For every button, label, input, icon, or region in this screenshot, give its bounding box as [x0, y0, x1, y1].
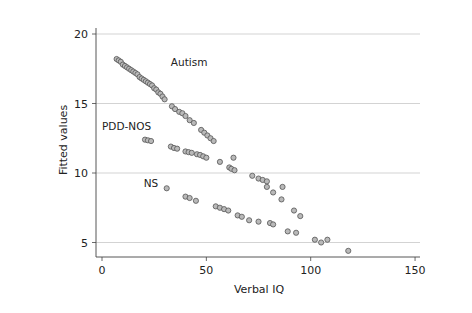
data-point	[271, 222, 276, 227]
data-point	[312, 237, 317, 242]
data-point	[346, 248, 351, 253]
data-point	[291, 208, 296, 213]
scatter-chart: 5101520050100150 AutismPDD-NOSNS Verbal …	[0, 0, 472, 313]
data-point	[193, 198, 198, 203]
x-tick-label: 150	[405, 264, 426, 277]
data-point	[231, 155, 236, 160]
data-point	[232, 168, 237, 173]
y-tick-label: 15	[74, 98, 88, 111]
data-point	[175, 146, 180, 151]
data-point	[250, 173, 255, 178]
data-point	[189, 150, 194, 155]
data-point	[271, 190, 276, 195]
y-tick-label: 10	[74, 167, 88, 180]
data-point	[256, 219, 261, 224]
data-point	[247, 218, 252, 223]
data-point	[217, 159, 222, 164]
data-point	[298, 213, 303, 218]
x-tick-label: 100	[300, 264, 321, 277]
data-point	[285, 229, 290, 234]
x-axis-title: Verbal IQ	[234, 283, 284, 296]
data-point	[319, 240, 324, 245]
data-point	[162, 97, 167, 102]
data-point	[226, 208, 231, 213]
annotation-label: PDD-NOS	[102, 120, 151, 132]
x-tick-label: 0	[99, 264, 106, 277]
data-point	[187, 195, 192, 200]
data-point	[293, 230, 298, 235]
y-tick-label: 5	[81, 237, 88, 250]
data-point	[239, 214, 244, 219]
y-tick-label: 20	[74, 28, 88, 41]
data-point	[211, 138, 216, 143]
data-point	[264, 179, 269, 184]
data-point	[148, 138, 153, 143]
data-point	[325, 237, 330, 242]
data-point	[264, 184, 269, 189]
x-tick-label: 50	[199, 264, 213, 277]
data-point	[164, 186, 169, 191]
data-point	[280, 184, 285, 189]
data-point	[279, 197, 284, 202]
data-point	[204, 155, 209, 160]
data-point	[191, 120, 196, 125]
y-axis-title: Fitted values	[57, 105, 70, 176]
data-point	[183, 113, 188, 118]
annotation-label: Autism	[171, 56, 208, 68]
annotation-label: NS	[144, 177, 159, 189]
